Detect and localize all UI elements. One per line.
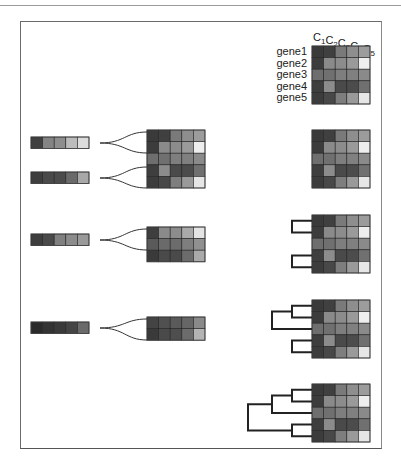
heatmap-cell <box>159 250 171 262</box>
heatmap-cell <box>43 172 55 184</box>
heatmap-cell <box>31 137 43 149</box>
heatmap-cell <box>347 419 359 431</box>
heatmap-cell <box>358 346 370 358</box>
dendrogram-branch <box>292 306 312 318</box>
heatmap-cell <box>324 227 336 239</box>
heatmap-cell <box>193 130 205 142</box>
heatmap-cell <box>358 176 370 188</box>
heatmap-right-1 <box>312 46 370 104</box>
heatmap-cell <box>312 335 324 347</box>
heatmap-cell <box>324 92 336 104</box>
heatmap-cell <box>170 153 182 165</box>
heatmap-cell <box>358 215 370 227</box>
heatmap-cell <box>347 430 359 442</box>
heatmap-cell <box>358 396 370 408</box>
heatmap-cell <box>43 137 55 149</box>
merged-profile-1b <box>31 172 89 184</box>
heatmap-cell <box>358 419 370 431</box>
heatmap-cell <box>335 165 347 177</box>
heatmap-cell <box>170 329 182 341</box>
heatmap-cell <box>43 322 55 334</box>
heatmap-cell <box>324 142 336 154</box>
heatmap-cell <box>358 312 370 324</box>
connector <box>100 229 147 240</box>
heatmap-cell <box>312 384 324 396</box>
connector <box>100 328 147 340</box>
heatmap-cell <box>324 384 336 396</box>
heatmap-cell <box>335 384 347 396</box>
heatmap-cell <box>347 130 359 142</box>
dendrogram-branch <box>292 390 312 402</box>
heatmap-cell <box>358 227 370 239</box>
heatmap-cell <box>77 137 89 149</box>
heatmap-cell <box>159 142 171 154</box>
heatmap-cell <box>335 227 347 239</box>
heatmap-cell <box>347 300 359 312</box>
heatmap-cell <box>324 165 336 177</box>
heatmap-cell <box>312 346 324 358</box>
heatmap-cell <box>347 227 359 239</box>
heatmap-cell <box>312 250 324 262</box>
heatmap-cell <box>312 300 324 312</box>
heatmap-cell <box>358 384 370 396</box>
heatmap-cell <box>358 92 370 104</box>
heatmap-cell <box>312 323 324 335</box>
heatmap-cell <box>147 329 159 341</box>
heatmap-step-3 <box>147 317 205 340</box>
heatmap-cell <box>324 69 336 81</box>
heatmap-cell <box>170 250 182 262</box>
heatmap-cell <box>193 317 205 329</box>
heatmap-cell <box>335 92 347 104</box>
heatmap-cell <box>335 335 347 347</box>
heatmap-cell <box>358 81 370 93</box>
connector <box>100 240 147 250</box>
merged-profile-2 <box>31 234 89 246</box>
dendrogram-branch <box>292 221 312 233</box>
heatmap-cell <box>312 58 324 70</box>
heatmap-cell <box>347 407 359 419</box>
gene-label: gene1 <box>276 45 307 57</box>
heatmap-cell <box>312 419 324 431</box>
heatmap-cell <box>54 234 66 246</box>
heatmap-cell <box>347 165 359 177</box>
merged-profile-1a <box>31 137 89 149</box>
heatmap-cell <box>77 322 89 334</box>
heatmap-cell <box>312 396 324 408</box>
heatmap-cell <box>335 130 347 142</box>
heatmap-cell <box>358 58 370 70</box>
heatmap-cell <box>147 142 159 154</box>
heatmap-cell <box>182 165 194 177</box>
heatmap-cell <box>312 142 324 154</box>
heatmap-cell <box>159 153 171 165</box>
heatmap-cell <box>193 153 205 165</box>
merged-profile-3 <box>31 322 89 334</box>
dendrogram-branch <box>292 256 312 268</box>
heatmap-cell <box>347 346 359 358</box>
heatmap-cell <box>324 300 336 312</box>
heatmap-cell <box>170 130 182 142</box>
heatmap-cell <box>358 261 370 273</box>
heatmap-cell <box>358 142 370 154</box>
heatmap-cell <box>77 172 89 184</box>
heatmap-cell <box>324 323 336 335</box>
gene-label: gene2 <box>276 57 307 69</box>
heatmap-cell <box>66 234 78 246</box>
heatmap-cell <box>358 430 370 442</box>
heatmap-right-5 <box>312 384 370 442</box>
heatmap-cell <box>312 130 324 142</box>
heatmap-cell <box>77 234 89 246</box>
heatmap-right-3 <box>312 215 370 273</box>
heatmap-cell <box>358 238 370 250</box>
heatmap-cell <box>182 176 194 188</box>
heatmap-cell <box>312 238 324 250</box>
heatmap-cell <box>312 69 324 81</box>
heatmap-cell <box>358 323 370 335</box>
heatmap-cell <box>324 346 336 358</box>
heatmap-cell <box>335 261 347 273</box>
heatmap-cell <box>335 250 347 262</box>
heatmap-cell <box>312 215 324 227</box>
gene-label: gene3 <box>276 68 307 80</box>
heatmap-cell <box>312 312 324 324</box>
heatmap-cell <box>335 69 347 81</box>
heatmap-cell <box>66 322 78 334</box>
